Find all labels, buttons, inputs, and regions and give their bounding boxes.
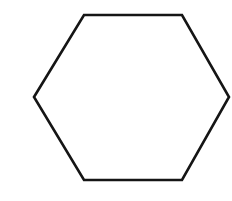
drawing-canvas <box>0 0 232 201</box>
hexagon-figure <box>0 0 232 201</box>
